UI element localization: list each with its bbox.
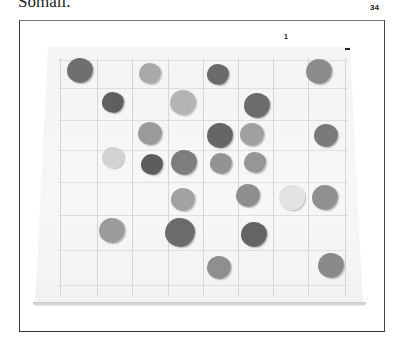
game-stone <box>207 256 231 279</box>
game-stone <box>312 185 338 210</box>
game-stone <box>240 123 264 146</box>
game-stone <box>138 122 162 145</box>
grid-line-vertical <box>238 58 239 296</box>
grid-line-horizontal <box>58 215 348 216</box>
grid-line-vertical <box>168 58 169 296</box>
grid-line-horizontal <box>58 60 348 61</box>
game-stone <box>279 185 305 210</box>
game-stone <box>171 188 195 211</box>
game-stone <box>318 253 344 278</box>
grid-line-vertical <box>132 58 133 296</box>
game-stone <box>139 63 161 84</box>
grid-line-vertical <box>345 58 346 296</box>
page-number: 34 <box>370 3 379 12</box>
game-stone <box>241 222 267 247</box>
figure-label: 1 <box>284 33 288 40</box>
board-marker-icon <box>345 48 350 50</box>
game-stone <box>102 147 124 168</box>
grid-line-horizontal <box>58 250 348 251</box>
game-stone <box>210 153 232 174</box>
grid-line-vertical <box>273 58 274 296</box>
caption-fragment: Somali. <box>18 0 70 12</box>
grid-line-horizontal <box>58 88 348 89</box>
game-stone <box>141 154 163 175</box>
game-stone <box>171 150 197 175</box>
game-stone <box>99 218 125 243</box>
game-stone <box>314 124 338 147</box>
game-stone <box>165 218 195 247</box>
grid-line-horizontal <box>58 150 348 151</box>
grid-line-vertical <box>97 58 98 296</box>
grid-line-horizontal <box>58 285 348 286</box>
grid-line-horizontal <box>58 182 348 183</box>
grid-line-vertical <box>203 58 204 296</box>
game-stone <box>306 59 332 84</box>
game-stone <box>102 92 124 113</box>
grid-line-vertical <box>308 58 309 296</box>
game-stone <box>207 123 233 148</box>
game-stone <box>170 90 196 115</box>
game-stone <box>207 64 229 85</box>
game-stone <box>67 58 93 83</box>
grid-line-vertical <box>60 58 61 296</box>
game-board <box>35 47 363 303</box>
grid-line-horizontal <box>58 120 348 121</box>
game-stone <box>244 93 270 118</box>
board-edge <box>33 302 366 306</box>
game-stone <box>236 184 260 207</box>
game-stone <box>244 152 266 173</box>
